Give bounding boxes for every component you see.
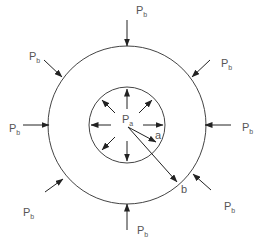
external-pressure-arrows [23,20,231,230]
svg-text:Pb: Pb [23,206,34,220]
radius-b-arrow [128,127,177,182]
svg-text:Pb: Pb [137,224,148,238]
outer-circle [48,46,206,204]
svg-text:Pb: Pb [221,57,232,71]
svg-text:Pb: Pb [136,4,147,18]
outer-radius-label: b [181,183,187,195]
svg-text:Pb: Pb [9,122,20,136]
svg-text:Pb: Pb [29,50,40,64]
radius-a-arrow [128,127,156,142]
internal-pressure-label: Pa [122,113,133,127]
svg-text:Pb: Pb [224,200,235,214]
inner-radius-label: a [155,129,162,141]
cylinder-diagram: Pa a b Pb Pb Pb Pb Pb Pb Pb Pb [0,0,258,247]
svg-text:Pb: Pb [242,121,253,135]
internal-pressure-arrows [91,89,163,161]
